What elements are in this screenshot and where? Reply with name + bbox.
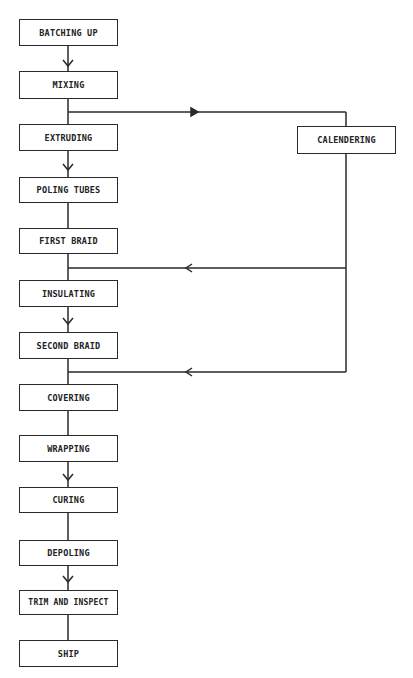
step-extruding: EXTRUDING <box>19 124 118 151</box>
step-ship: SHIP <box>19 640 118 667</box>
step-label: COVERING <box>47 393 90 403</box>
step-label: SHIP <box>58 649 79 659</box>
step-depoling: DEPOLING <box>19 540 118 566</box>
step-label: TRIM AND INSPECT <box>28 598 108 607</box>
step-label: POLING TUBES <box>37 185 101 195</box>
step-label: CALENDERING <box>317 135 376 145</box>
step-mixing: MIXING <box>19 71 118 99</box>
step-poling-tubes: POLING TUBES <box>19 177 118 203</box>
step-covering: COVERING <box>19 384 118 411</box>
step-wrapping: WRAPPING <box>19 435 118 462</box>
step-label: INSULATING <box>42 289 95 299</box>
step-calendering: CALENDERING <box>297 126 396 154</box>
step-batching-up: BATCHING UP <box>19 19 118 46</box>
step-second-braid: SECOND BRAID <box>19 332 118 359</box>
step-label: WRAPPING <box>47 444 90 454</box>
step-label: FIRST BRAID <box>39 236 98 246</box>
step-trim-and-inspect: TRIM AND INSPECT <box>19 590 118 615</box>
step-label: MIXING <box>53 80 85 90</box>
step-insulating: INSULATING <box>19 280 118 307</box>
step-label: CURING <box>53 495 85 505</box>
step-label: SECOND BRAID <box>37 341 101 351</box>
step-first-braid: FIRST BRAID <box>19 228 118 254</box>
arrow-right-icon <box>191 108 198 116</box>
step-label: BATCHING UP <box>39 28 98 38</box>
step-label: EXTRUDING <box>45 133 93 143</box>
step-curing: CURING <box>19 487 118 513</box>
step-label: DEPOLING <box>47 548 90 558</box>
